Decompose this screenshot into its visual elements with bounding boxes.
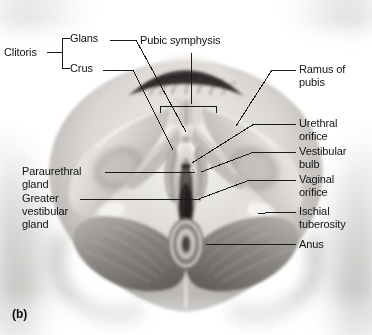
panel-letter: (b) — [12, 307, 27, 321]
label-ischial-tuberosity-line2: tuberosity — [299, 218, 346, 231]
pubic-symphysis-region — [170, 97, 202, 127]
paraurethral-gland — [191, 168, 196, 173]
label-greater-vestibular-gland-line2: vestibular — [22, 205, 68, 218]
label-crus: Crus — [70, 62, 93, 75]
label-greater-vestibular-gland-line1: Greater — [22, 192, 59, 205]
label-vestibular-bulb-line2: bulb — [299, 158, 319, 171]
label-ramus-of-pubis-line2: pubis — [299, 76, 325, 89]
label-urethral-orifice-line2: orifice — [299, 130, 328, 143]
label-urethral-orifice-line1: Urethral — [299, 117, 337, 130]
label-ramus-of-pubis-line1: Ramus of — [299, 63, 345, 76]
label-ischial-tuberosity-line1: Ischial — [299, 205, 329, 218]
label-greater-vestibular-gland-line3: gland — [22, 218, 48, 231]
anus-and-sphincter — [168, 218, 204, 270]
label-anus: Anus — [299, 238, 324, 251]
label-vestibular-bulb-line1: Vestibular — [299, 145, 346, 158]
label-clitoris: Clitoris — [4, 46, 37, 59]
label-vaginal-orifice-line1: Vaginal — [299, 173, 334, 186]
label-pubic-symphysis: Pubic symphysis — [140, 34, 220, 47]
figure-panel-b: Clitoris Glans Crus Pubic symphysis Ramu… — [0, 0, 372, 335]
label-paraurethral-gland-line2: gland — [22, 178, 48, 191]
label-glans: Glans — [70, 32, 98, 45]
greater-vestibular-gland — [197, 197, 203, 203]
label-paraurethral-gland-line1: Paraurethral — [22, 165, 81, 178]
label-vaginal-orifice-line2: orifice — [299, 186, 328, 199]
